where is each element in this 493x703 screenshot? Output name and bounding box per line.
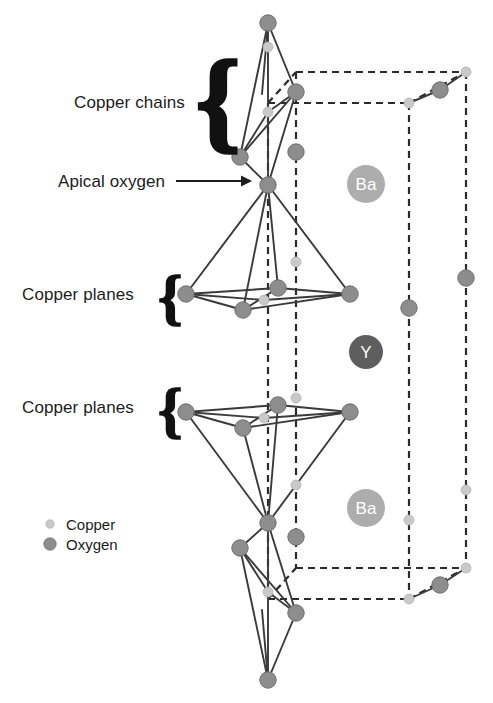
ion-label-y: Y <box>360 343 371 362</box>
atom-oxygen <box>260 672 276 688</box>
legend-marker-oxygen <box>44 538 56 550</box>
bond-line <box>186 288 278 294</box>
brace-copper-planes-upper: { <box>158 266 182 328</box>
atom-oxygen <box>232 540 248 556</box>
ion-label-ba: Ba <box>356 499 377 518</box>
atom-copper <box>291 257 301 267</box>
bond-line <box>268 613 296 680</box>
bond-line <box>268 185 278 288</box>
label-copper-planes-lower: Copper planes <box>22 398 134 418</box>
bond-line <box>186 405 278 412</box>
brace-copper-chains: { <box>196 44 240 156</box>
brace-copper-planes-lower: { <box>158 379 182 441</box>
atom-copper <box>291 393 301 403</box>
bond-line <box>268 185 350 294</box>
bond-line <box>186 185 268 294</box>
atom-oxygen <box>260 177 276 193</box>
bond-line <box>243 185 268 310</box>
atom-copper <box>263 42 273 52</box>
bond-line <box>278 288 350 294</box>
label-apical-oxygen: Apical oxygen <box>58 172 165 192</box>
atom-oxygen <box>235 420 251 436</box>
atom-oxygen <box>342 286 358 302</box>
atom-oxygen <box>432 82 448 98</box>
atom-oxygen <box>288 144 304 160</box>
bond-line <box>268 412 350 523</box>
atom-copper <box>461 485 471 495</box>
bond-line <box>278 405 350 412</box>
ion-labels: BaYBa <box>347 165 385 527</box>
bond-line <box>186 412 268 523</box>
atom-copper <box>259 295 269 305</box>
legend-label-oxygen: Oxygen <box>66 536 118 553</box>
atom-copper <box>404 98 414 108</box>
bond-line <box>240 548 268 680</box>
atom-oxygen <box>432 577 448 593</box>
bond-line <box>268 92 296 185</box>
apical-oxygen-arrow <box>176 176 252 187</box>
arrow-head <box>241 176 252 187</box>
legend-markers <box>44 520 56 550</box>
atom-oxygen <box>235 302 251 318</box>
atom-copper <box>461 563 471 573</box>
atom-oxygen <box>458 270 474 286</box>
atom-oxygen <box>288 605 304 621</box>
atom-oxygen <box>270 280 286 296</box>
label-copper-chains: Copper chains <box>74 93 185 113</box>
atom-oxygen <box>260 15 276 31</box>
atom-oxygen <box>288 529 304 545</box>
crystal-structure-figure: BaYBa Copper chains { Apical oxygen Copp… <box>0 0 493 703</box>
atom-copper <box>404 594 414 604</box>
atom-copper <box>404 515 414 525</box>
atom-oxygen <box>342 404 358 420</box>
bond-line <box>268 23 296 92</box>
atom-oxygen <box>260 515 276 531</box>
label-copper-planes-upper: Copper planes <box>22 285 134 305</box>
atom-oxygen <box>288 84 304 100</box>
bond-line <box>240 23 268 157</box>
atom-oxygen <box>270 397 286 413</box>
atom-copper <box>259 413 269 423</box>
atom-copper <box>291 480 301 490</box>
legend-marker-copper <box>46 520 54 528</box>
ion-label-ba: Ba <box>356 175 377 194</box>
bond-line <box>243 428 268 523</box>
atom-copper <box>263 587 273 597</box>
atom-oxygen <box>401 300 417 316</box>
atom-copper <box>263 107 273 117</box>
legend-label-copper: Copper <box>66 516 115 533</box>
atom-copper <box>461 67 471 77</box>
